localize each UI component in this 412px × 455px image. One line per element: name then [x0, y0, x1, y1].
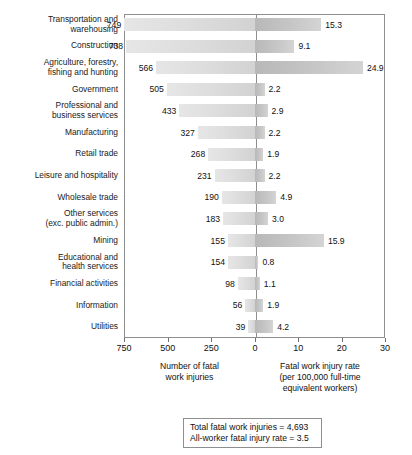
bar-injury-rate: [255, 256, 258, 269]
axis-tick-left-250: [211, 338, 212, 342]
summary-note-box: Total fatal work injuries = 4,693 All-wo…: [183, 418, 322, 448]
axis-caption-left: Number of fatalwork injuries: [124, 361, 255, 383]
axis-caption-left-line: Number of fatal: [124, 361, 255, 372]
axis-tick-label-left-250: 250: [204, 343, 219, 353]
category-label-line: Retail trade: [75, 149, 118, 159]
chart-row: Construction7389.1: [0, 36, 412, 57]
value-label-rate: 2.9: [272, 100, 284, 121]
axis-caption-right: Fatal work injury rate(per 100,000 full-…: [255, 361, 385, 394]
category-label: Educational andhealth services: [0, 252, 118, 273]
category-label-line: Mining: [93, 236, 118, 246]
value-label-injuries: 433: [153, 100, 176, 121]
value-label-rate: 0.8: [262, 252, 274, 273]
value-label-rate: 4.2: [277, 316, 289, 337]
chart-row: Educational andhealth services1540.8: [0, 252, 412, 273]
bar-number-of-injuries: [238, 277, 255, 290]
category-label-line: Leisure and hospitality: [35, 171, 118, 181]
axis-tick-left-750: [124, 338, 125, 342]
bar-number-of-injuries: [228, 256, 255, 269]
category-label: Leisure and hospitality: [0, 165, 118, 186]
axis-tick-label-left-750: 750: [116, 343, 131, 353]
axis-tick-label-left-500: 500: [160, 343, 175, 353]
chart-row: Retail trade2681.9: [0, 144, 412, 165]
bar-number-of-injuries: [223, 212, 255, 225]
axis-tick-right-30: [385, 338, 386, 342]
bar-injury-rate: [255, 148, 263, 161]
summary-all-worker-rate: All-worker fatal injury rate = 3.5: [190, 433, 321, 445]
bar-number-of-injuries: [245, 299, 255, 312]
value-label-injuries: 155: [202, 230, 225, 251]
axis-tick-label-right-30: 30: [380, 343, 390, 353]
chart-row: Government5052.2: [0, 79, 412, 100]
axis-tick-labels: 7505002500102030: [0, 343, 412, 355]
axis-tick-right-10: [298, 338, 299, 342]
chart-row: Information561.9: [0, 295, 412, 316]
chart-row: Professional andbusiness services4332.9: [0, 100, 412, 121]
value-label-injuries: 154: [202, 252, 225, 273]
bar-injury-rate: [255, 191, 276, 204]
category-label-line: Utilities: [91, 322, 118, 332]
bar-number-of-injuries: [167, 83, 255, 96]
value-label-rate: 15.9: [328, 230, 345, 251]
bar-injury-rate: [255, 299, 263, 312]
category-label: Utilities: [0, 316, 118, 337]
bar-number-of-injuries: [215, 169, 255, 182]
value-label-injuries: 190: [196, 187, 219, 208]
axis-tick-right-0: [255, 338, 256, 342]
category-label-line: fishing and hunting: [48, 68, 118, 78]
value-label-injuries: 98: [212, 273, 235, 294]
chart-row: Financial activities981.1: [0, 273, 412, 294]
chart-row: Manufacturing3272.2: [0, 122, 412, 143]
bar-number-of-injuries: [208, 148, 255, 161]
category-label: Government: [0, 79, 118, 100]
bar-injury-rate: [255, 212, 268, 225]
chart-row: Mining15515.9: [0, 230, 412, 251]
bar-injury-rate: [255, 234, 324, 247]
bar-number-of-injuries: [198, 126, 255, 139]
axis-caption-left-line: work injuries: [124, 372, 255, 383]
bar-injury-rate: [255, 169, 265, 182]
value-label-injuries: 749: [98, 14, 121, 35]
category-label: Other services(exc. public admin.): [0, 208, 118, 229]
category-label-line: health services: [62, 262, 118, 272]
value-label-injuries: 39: [222, 316, 245, 337]
chart-row: Leisure and hospitality2312.2: [0, 165, 412, 186]
axis-caption-right-line: Fatal work injury rate: [255, 361, 385, 372]
category-label: Agriculture, forestry,fishing and huntin…: [0, 57, 118, 78]
category-label-line: business services: [52, 111, 118, 121]
category-label: Financial activities: [0, 273, 118, 294]
value-label-injuries: 505: [141, 79, 164, 100]
value-label-injuries: 327: [172, 122, 195, 143]
value-label-rate: 15.3: [325, 14, 342, 35]
value-label-rate: 4.9: [280, 187, 292, 208]
bar-number-of-injuries: [124, 18, 255, 31]
value-label-rate: 1.1: [264, 273, 276, 294]
axis-caption-right-line: (per 100,000 full-time: [255, 372, 385, 383]
bar-number-of-injuries: [248, 320, 255, 333]
category-label: Information: [0, 295, 118, 316]
bar-number-of-injuries: [179, 104, 255, 117]
value-label-injuries: 566: [130, 57, 153, 78]
fatal-work-injuries-chart: Transportation andwarehousing74915.3Cons…: [0, 0, 412, 455]
category-label: Mining: [0, 230, 118, 251]
bar-number-of-injuries: [228, 234, 255, 247]
bar-number-of-injuries: [126, 40, 255, 53]
category-label-line: Manufacturing: [65, 128, 118, 138]
axis-tick-label-right-0: 0: [252, 343, 257, 353]
axis-caption-right-line: equivalent workers): [255, 383, 385, 394]
bar-number-of-injuries: [222, 191, 255, 204]
value-label-rate: 1.9: [267, 144, 279, 165]
value-label-rate: 24.9: [367, 57, 384, 78]
category-label-line: Information: [76, 301, 118, 311]
value-label-rate: 9.1: [298, 36, 310, 57]
chart-row: Agriculture, forestry,fishing and huntin…: [0, 57, 412, 78]
bar-injury-rate: [255, 126, 265, 139]
value-label-injuries: 231: [189, 165, 212, 186]
chart-row: Transportation andwarehousing74915.3: [0, 14, 412, 35]
axis-tick-label-right-10: 10: [293, 343, 303, 353]
value-label-rate: 1.9: [267, 295, 279, 316]
chart-row: Wholesale trade1904.9: [0, 187, 412, 208]
bar-injury-rate: [255, 61, 363, 74]
value-label-rate: 2.2: [269, 165, 281, 186]
bar-injury-rate: [255, 320, 273, 333]
